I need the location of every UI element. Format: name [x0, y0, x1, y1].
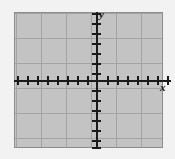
major-gridline-horizontal	[15, 13, 162, 14]
x-axis-tick	[77, 76, 79, 85]
y-axis-tick	[92, 90, 101, 92]
y-axis-tick	[92, 130, 101, 132]
major-gridline-horizontal	[15, 63, 162, 64]
x-axis-tick	[137, 76, 139, 85]
y-axis-tick	[92, 147, 101, 149]
y-axis-tick	[92, 53, 101, 55]
x-axis-tick	[47, 76, 49, 85]
y-axis-tick	[92, 33, 101, 35]
y-axis-tick	[92, 63, 101, 65]
y-axis-tick	[92, 43, 101, 45]
x-axis-tick	[57, 76, 59, 85]
y-axis-tick	[92, 100, 101, 102]
x-axis-tick	[17, 76, 19, 85]
y-axis-tick	[92, 120, 101, 122]
x-axis-tick	[107, 76, 109, 85]
major-gridline-horizontal	[15, 38, 162, 39]
coordinate-grid-figure: x y	[0, 0, 175, 159]
x-axis-tick	[167, 76, 169, 85]
x-axis-tick	[37, 76, 39, 85]
x-axis-label: x	[160, 82, 166, 93]
x-axis-tick	[87, 76, 89, 85]
x-axis-tick	[117, 76, 119, 85]
x-axis-tick	[67, 76, 69, 85]
x-axis-tick	[147, 76, 149, 85]
x-axis-tick	[157, 76, 159, 85]
major-gridline-horizontal	[15, 88, 162, 89]
major-gridline-horizontal	[15, 113, 162, 114]
y-axis-tick	[92, 110, 101, 112]
x-axis-tick	[27, 76, 29, 85]
y-axis-tick	[92, 73, 101, 75]
y-axis-tick	[92, 140, 101, 142]
y-axis-tick	[92, 23, 101, 25]
x-axis-tick	[127, 76, 129, 85]
y-axis-label: y	[99, 9, 104, 20]
major-gridline-horizontal	[15, 138, 162, 139]
